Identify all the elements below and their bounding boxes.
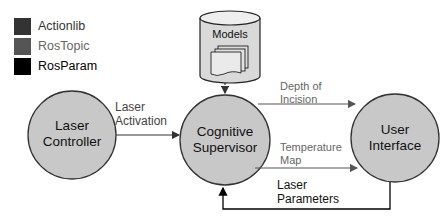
label-line: Depth of	[280, 80, 322, 93]
label-line: Cognitive	[175, 124, 275, 140]
label-line: Temperature	[280, 141, 342, 154]
label-line: Laser	[22, 118, 122, 134]
models-database-icon	[200, 11, 260, 83]
label-line: Laser	[115, 100, 167, 114]
label-line: Activation	[115, 114, 167, 128]
temperature-map-label: Temperature Map	[280, 141, 342, 167]
user-interface-label: User Interface	[345, 122, 445, 154]
laser-parameters-label: Laser Parameters	[277, 178, 339, 207]
depth-of-incision-label: Depth of Incision	[280, 80, 322, 106]
laser-controller-label: Laser Controller	[22, 118, 122, 150]
label-line: Parameters	[277, 192, 339, 206]
label-line: User	[345, 122, 445, 138]
label-line: Controller	[22, 134, 122, 150]
label-line: Interface	[345, 138, 445, 154]
label-line: Supervisor	[175, 140, 275, 156]
label-line: Map	[280, 154, 342, 167]
label-line: Laser	[277, 178, 339, 192]
documents-icon	[211, 46, 248, 76]
models-label: Models	[200, 28, 260, 41]
laser-activation-label: Laser Activation	[115, 100, 167, 129]
cognitive-supervisor-label: Cognitive Supervisor	[175, 124, 275, 156]
label-line: Incision	[280, 93, 322, 106]
